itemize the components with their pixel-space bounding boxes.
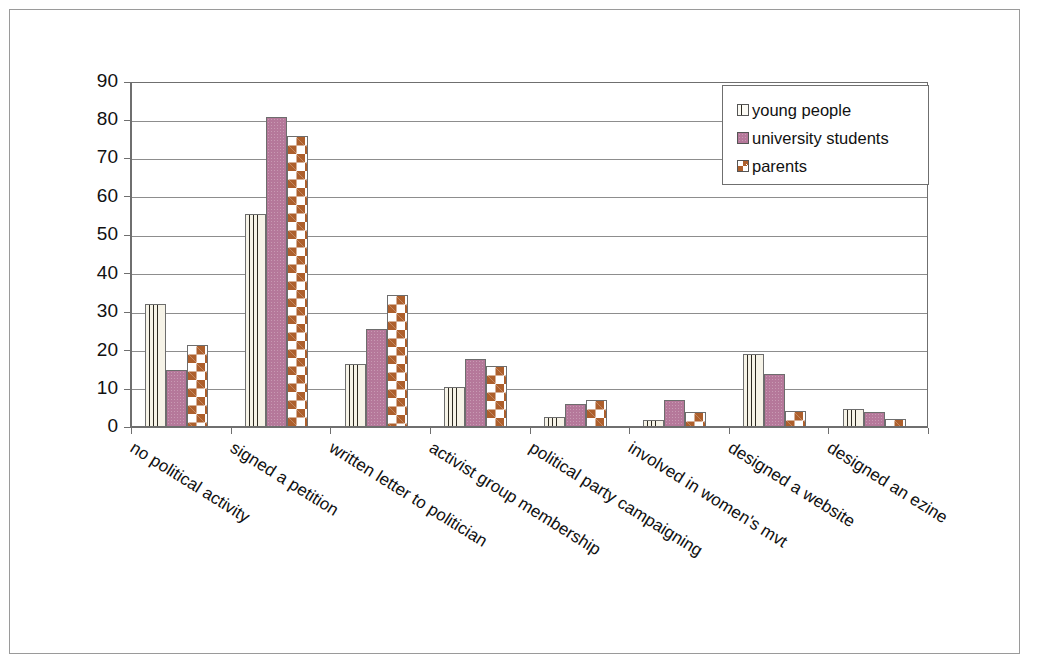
- chart-legend: young people university students parents: [722, 85, 929, 185]
- bar-chart: 90 80 70 60 50 40 30 20 10 0 no politica…: [0, 0, 1038, 664]
- bar-young-people-7: [843, 409, 864, 427]
- y-tick-80: [124, 120, 131, 121]
- bar-parents-5: [685, 412, 706, 427]
- legend-item-university-students: university students: [737, 124, 928, 152]
- bar-parents-1: [287, 136, 308, 427]
- x-tick-1: [231, 428, 232, 434]
- legend-label-university-students: university students: [752, 129, 889, 148]
- y-tick-10: [124, 389, 131, 390]
- x-tick-0: [131, 428, 132, 434]
- x-tick-4: [530, 428, 531, 434]
- x-tick-2: [330, 428, 331, 434]
- bar-parents-7: [885, 419, 906, 427]
- legend-swatch-university-students-icon: [737, 132, 749, 144]
- bar-young-people-3: [444, 387, 465, 427]
- y-tick-90: [124, 82, 131, 83]
- x-tick-8: [928, 428, 929, 434]
- bar-young-people-1: [245, 214, 266, 427]
- x-tick-3: [430, 428, 431, 434]
- bar-parents-3: [486, 366, 507, 427]
- legend-swatch-young-people-icon: [737, 104, 749, 116]
- bar-parents-0: [187, 345, 208, 427]
- legend-label-young-people: young people: [752, 101, 851, 120]
- bar-university-students-7: [864, 412, 885, 427]
- y-axis-label-0: 0: [78, 415, 118, 437]
- y-tick-60: [124, 196, 131, 197]
- x-tick-6: [729, 428, 730, 434]
- x-axis-label-5: involved in women's mvt: [625, 438, 791, 552]
- y-axis-label-80: 80: [78, 108, 118, 130]
- y-axis-label-60: 60: [78, 185, 118, 207]
- bar-university-students-2: [366, 329, 387, 427]
- legend-item-parents: parents: [737, 152, 928, 180]
- bar-university-students-4: [565, 404, 586, 427]
- x-axis-label-2: written letter to politician: [326, 438, 491, 552]
- y-tick-20: [124, 350, 131, 351]
- legend-swatch-parents-icon: [737, 160, 749, 172]
- legend-item-young-people: young people: [737, 96, 928, 124]
- bar-university-students-6: [764, 374, 785, 427]
- y-axis-label-50: 50: [78, 223, 118, 245]
- y-tick-30: [124, 312, 131, 313]
- x-tick-7: [828, 428, 829, 434]
- bar-young-people-2: [345, 364, 366, 427]
- y-tick-50: [124, 235, 131, 236]
- x-tick-5: [629, 428, 630, 434]
- y-axis-label-90: 90: [78, 70, 118, 92]
- bar-university-students-5: [664, 400, 685, 427]
- x-axis-label-3: activist group membership: [425, 438, 604, 560]
- bar-parents-4: [586, 400, 607, 427]
- bar-young-people-0: [145, 304, 166, 427]
- y-axis-label-40: 40: [78, 262, 118, 284]
- x-axis-label-4: political party campaigning: [525, 438, 705, 561]
- bar-young-people-5: [643, 420, 664, 427]
- y-axis-label-30: 30: [78, 300, 118, 322]
- bar-parents-6: [785, 411, 806, 427]
- y-axis-label-20: 20: [78, 339, 118, 361]
- y-axis-label-70: 70: [78, 146, 118, 168]
- y-axis-label-10: 10: [78, 377, 118, 399]
- bar-parents-2: [387, 295, 408, 427]
- y-tick-40: [124, 273, 131, 274]
- y-tick-70: [124, 158, 131, 159]
- bar-university-students-1: [266, 117, 287, 428]
- bar-university-students-3: [465, 359, 486, 427]
- legend-label-parents: parents: [752, 157, 807, 176]
- bar-university-students-0: [166, 370, 187, 428]
- bar-young-people-4: [544, 417, 565, 427]
- bar-young-people-6: [743, 354, 764, 427]
- chart-page: 90 80 70 60 50 40 30 20 10 0 no politica…: [0, 0, 1038, 664]
